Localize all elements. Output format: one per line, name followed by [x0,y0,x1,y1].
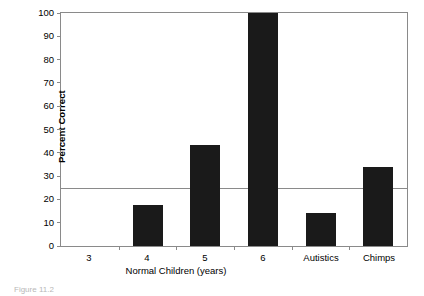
x-tick-mark [119,246,120,250]
x-tick-mark [176,246,177,250]
plot-frame: Percent Correct 1009080706050403020100 [60,12,408,247]
x-tick-mark [349,246,350,250]
figure-bar-chart: Percent Correct 1009080706050403020100 3… [0,0,424,296]
x-axis-tick-labels: 3456AutisticsChimps [60,252,408,264]
bar-series [61,13,407,246]
bar-slot [349,13,407,246]
x-tick-mark [234,246,235,250]
y-tick-label: 70 [43,77,54,88]
bar-slot [176,13,234,246]
x-tick-label: 4 [118,252,176,264]
bar-slot [119,13,177,246]
bar [363,167,393,246]
y-tick-label: 60 [43,100,54,111]
y-tick-label: 20 [43,193,54,204]
bar [190,145,220,246]
bar [306,213,336,246]
x-tick-label: Autistics [292,252,350,264]
y-tick-label: 80 [43,54,54,65]
bar [248,13,278,246]
y-tick-label: 40 [43,147,54,158]
y-tick-label: 30 [43,170,54,181]
y-tick-label: 50 [43,124,54,135]
y-tick-label: 10 [43,217,54,228]
y-tick-label: 100 [38,7,54,18]
x-tick-label: 3 [60,252,118,264]
x-tick-mark [292,246,293,250]
bar-slot [292,13,350,246]
x-tick-label: Chimps [350,252,408,264]
figure-caption: Figure 11.2 [14,285,54,294]
x-tick-label: 6 [234,252,292,264]
bar [133,205,163,246]
x-tick-label: 5 [176,252,234,264]
y-tick-label: 90 [43,30,54,41]
y-tick-label: 0 [49,240,54,251]
x-axis-title: Normal Children (years) [60,265,292,277]
plot-area: 1009080706050403020100 [61,13,407,246]
bar-slot [61,13,119,246]
bar-slot [234,13,292,246]
